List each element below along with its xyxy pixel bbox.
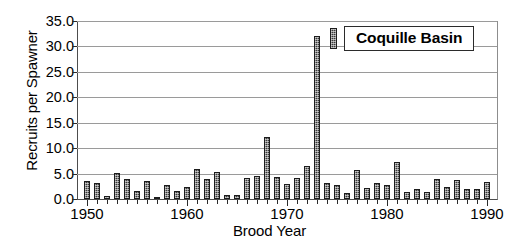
x-tick-mark — [247, 200, 248, 204]
x-tick-label: 1990 — [452, 205, 515, 223]
x-tick-mark — [307, 200, 308, 204]
bar — [454, 180, 460, 199]
bar — [204, 179, 210, 199]
bar — [84, 181, 90, 199]
bar — [414, 189, 420, 199]
bar — [104, 196, 110, 199]
x-tick-mark — [117, 200, 118, 204]
bar — [184, 187, 190, 199]
legend-box: Coquille Basin — [344, 26, 474, 51]
x-tick-mark — [427, 200, 428, 204]
bar — [254, 176, 260, 199]
bar — [394, 162, 400, 199]
x-tick-mark — [217, 200, 218, 204]
legend-swatch — [330, 28, 337, 49]
x-tick-mark — [137, 200, 138, 204]
y-tick-label: 0.0 — [26, 192, 74, 206]
x-axis-title-text: Brood Year — [233, 222, 306, 239]
bar — [484, 182, 490, 199]
bar — [354, 170, 360, 199]
x-tick-mark — [197, 200, 198, 204]
bar — [224, 195, 230, 199]
x-tick-mark — [327, 200, 328, 204]
y-axis-tick-labels: 0.05.010.015.020.025.030.035.0 — [26, 14, 74, 200]
x-tick-mark — [157, 200, 158, 204]
bar — [234, 195, 240, 199]
x-tick-mark — [147, 200, 148, 204]
bar — [424, 192, 430, 199]
bar — [244, 178, 250, 199]
bar — [154, 197, 160, 199]
x-tick-mark — [337, 200, 338, 204]
y-tick-label: 20.0 — [26, 90, 74, 104]
x-tick-mark — [177, 200, 178, 204]
bar — [324, 183, 330, 199]
bar — [474, 189, 480, 199]
x-tick-mark — [397, 200, 398, 204]
bar — [94, 183, 100, 199]
x-axis-title: Brood Year — [0, 222, 515, 239]
x-tick-label: 1980 — [352, 205, 422, 223]
y-tick-label: 30.0 — [26, 39, 74, 53]
bar — [284, 184, 290, 199]
y-tick-label: 15.0 — [26, 116, 74, 130]
x-tick-label: 1960 — [152, 205, 222, 223]
x-tick-mark — [127, 200, 128, 204]
x-tick-mark — [447, 200, 448, 204]
bar — [114, 173, 120, 199]
y-tick-label: 35.0 — [26, 14, 74, 28]
x-tick-label: 1970 — [252, 205, 322, 223]
x-tick-mark — [297, 200, 298, 204]
bar — [124, 179, 130, 199]
bar — [164, 185, 170, 199]
bar — [434, 179, 440, 199]
x-tick-mark — [267, 200, 268, 204]
bar — [174, 191, 180, 199]
bar — [364, 188, 370, 199]
x-tick-mark — [377, 200, 378, 204]
y-tick-label: 10.0 — [26, 141, 74, 155]
x-tick-mark — [317, 200, 318, 204]
bar — [304, 166, 310, 199]
x-tick-mark — [167, 200, 168, 204]
x-tick-mark — [417, 200, 418, 204]
bar — [334, 185, 340, 199]
x-tick-mark — [277, 200, 278, 204]
bar — [464, 189, 470, 199]
x-tick-mark — [257, 200, 258, 204]
bar — [384, 185, 390, 199]
x-tick-mark — [457, 200, 458, 204]
bar — [264, 137, 270, 199]
bar — [274, 177, 280, 199]
x-tick-mark — [357, 200, 358, 204]
bar — [444, 187, 450, 199]
bar — [194, 169, 200, 200]
bar — [294, 178, 300, 199]
x-tick-mark — [237, 200, 238, 204]
legend: Coquille Basin — [330, 26, 474, 51]
x-tick-mark — [97, 200, 98, 204]
y-tick-label: 25.0 — [26, 65, 74, 79]
x-tick-mark — [437, 200, 438, 204]
x-tick-mark — [467, 200, 468, 204]
x-tick-mark — [347, 200, 348, 204]
x-tick-mark — [367, 200, 368, 204]
bar — [344, 193, 350, 199]
bar — [404, 192, 410, 199]
x-tick-mark — [227, 200, 228, 204]
x-tick-mark — [477, 200, 478, 204]
legend-label: Coquille Basin — [356, 29, 462, 46]
chart-figure: Recruits per Spawner 0.05.010.015.020.02… — [0, 0, 515, 243]
x-tick-label: 1950 — [52, 205, 122, 223]
bar — [144, 181, 150, 199]
bar — [314, 36, 320, 199]
bar — [214, 172, 220, 199]
x-tick-mark — [407, 200, 408, 204]
bar — [374, 183, 380, 199]
y-tick-label: 5.0 — [26, 167, 74, 181]
x-tick-mark — [207, 200, 208, 204]
bar — [134, 191, 140, 199]
x-tick-mark — [107, 200, 108, 204]
